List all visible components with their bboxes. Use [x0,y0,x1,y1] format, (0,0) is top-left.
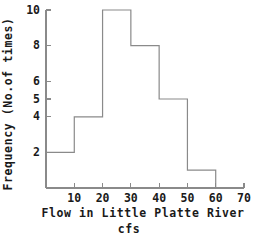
x-axis-title-line2: cfs [118,222,141,236]
x-tick-label: 10 [67,191,81,205]
x-tick-label: 50 [180,191,194,205]
y-tick-label: 2 [33,145,40,159]
y-tick-label: 8 [33,38,40,52]
x-axis-title-line1: Flow in Little Platte River [41,206,244,220]
y-axis-title: Frequency (No.of times) [1,17,15,190]
histogram-step-outline [46,10,216,188]
y-tick-marks [46,10,51,152]
x-tick-label: 60 [209,191,223,205]
x-tick-label: 30 [124,191,138,205]
x-tick-marks [74,183,244,188]
y-tick-label: 6 [33,74,40,88]
x-tick-label: 40 [152,191,166,205]
x-axis-group: 10203040506070 [46,183,251,205]
y-tick-label: 10 [26,3,40,17]
x-tick-label: 70 [237,191,251,205]
x-tick-label: 20 [96,191,110,205]
x-tick-labels: 10203040506070 [67,191,251,205]
histogram-chart: 2456810 10203040506070 Flow in Little Pl… [0,0,254,240]
y-tick-label: 5 [33,92,40,106]
y-tick-label: 4 [33,109,40,123]
y-tick-labels: 2456810 [26,3,40,159]
histogram-plot-svg: 2456810 10203040506070 Flow in Little Pl… [0,0,254,240]
y-axis-group: 2456810 [26,3,51,189]
